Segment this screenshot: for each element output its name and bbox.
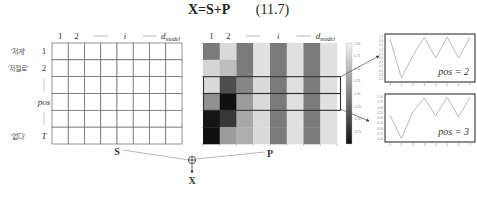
table-cell [150, 127, 166, 144]
heatmap-cell [237, 94, 254, 111]
chart-xtick: 7 [469, 83, 471, 87]
table-cell [101, 77, 117, 94]
heatmap-cell [287, 60, 304, 77]
connector-S [123, 150, 189, 160]
table-cell [52, 43, 68, 60]
chart-xtick: 0 [389, 83, 391, 87]
heatmap-col-header: i [277, 31, 280, 41]
table-cell [85, 60, 101, 77]
heatmap-cell [220, 77, 237, 94]
chart-xtick: 2 [412, 83, 414, 87]
chart-xtick: 2 [412, 143, 414, 147]
table-cell [133, 94, 149, 111]
colorbar-tick: 1.00 [354, 42, 360, 46]
table-cell [117, 60, 133, 77]
table-cell [101, 60, 117, 77]
heatmap-cell [304, 127, 321, 144]
heatmap-cell [320, 127, 337, 144]
table-cell [101, 127, 117, 144]
label-P: P [267, 148, 273, 159]
chart-xtick: 4 [435, 143, 437, 147]
table-cell [52, 110, 68, 127]
table-cell [150, 60, 166, 77]
table-cell [133, 127, 149, 144]
table-cell [68, 127, 84, 144]
heatmap-cell [220, 43, 237, 60]
table-cell [150, 43, 166, 60]
heatmap-cell [304, 77, 321, 94]
heatmap-cell [253, 60, 270, 77]
table-cell [101, 94, 117, 111]
chart-annotation: pos = 2 [437, 66, 469, 77]
heatmap-cell [253, 110, 270, 127]
table-S-row-header: 2 [42, 63, 47, 73]
heatmap-cell [270, 60, 287, 77]
heatmap-cell [304, 60, 321, 77]
table-S-col-header: 2 [74, 31, 79, 41]
connector-P [196, 152, 265, 159]
chart-ytick: 0.00 [378, 116, 384, 120]
table-cell [133, 60, 149, 77]
heatmap-cell [270, 127, 287, 144]
heatmap-cell [270, 77, 287, 94]
table-cell [166, 60, 182, 77]
heatmap-cell [304, 43, 321, 60]
heatmap-cell [270, 110, 287, 127]
table-cell [166, 110, 182, 127]
table-cell [52, 77, 68, 94]
table-cell [101, 43, 117, 60]
colorbar [346, 43, 352, 144]
table-S-col-header: dmodel [161, 31, 180, 42]
colorbar-tick: 0.00 [354, 92, 360, 96]
chart-xtick: 4 [435, 83, 437, 87]
table-cell [133, 43, 149, 60]
heatmap-cell [203, 94, 220, 111]
heatmap-cell [287, 110, 304, 127]
heatmap-cell [237, 43, 254, 60]
chart-xtick: 7 [469, 143, 471, 147]
colorbar-tick: 0.25 [354, 79, 360, 83]
table-cell [117, 110, 133, 127]
colorbar-tick: -0.75 [354, 130, 361, 134]
table-cell [85, 77, 101, 94]
table-cell [85, 43, 101, 60]
heatmap-col-header: 2 [226, 31, 231, 41]
token-label: '저게' [11, 47, 26, 56]
table-S-row-header: 1 [42, 46, 47, 56]
table-cell [166, 127, 182, 144]
table-S-row-header: T [41, 131, 47, 141]
colorbar-tick: -0.25 [354, 105, 361, 109]
table-cell [166, 43, 182, 60]
heatmap-cell [237, 110, 254, 127]
table-cell [117, 94, 133, 111]
heatmap-cell [270, 43, 287, 60]
chart-xtick: 0 [389, 143, 391, 147]
heatmap-cell [220, 94, 237, 111]
table-cell [101, 110, 117, 127]
heatmap-cell [287, 77, 304, 94]
heatmap-cell [253, 77, 270, 94]
table-cell [68, 110, 84, 127]
heatmap-cell [253, 127, 270, 144]
table-cell [117, 127, 133, 144]
heatmap-cell [304, 94, 321, 111]
heatmap-cell [253, 43, 270, 60]
table-S [52, 43, 182, 144]
heatmap-cell [220, 110, 237, 127]
chart-ytick: -1.0 [378, 77, 383, 81]
table-cell [85, 94, 101, 111]
heatmap-cell [253, 94, 270, 111]
heatmap-cell [287, 43, 304, 60]
heatmap-cell [203, 43, 220, 60]
token-label: '저절로' [8, 64, 29, 73]
positional-encoding-diagram: 12idmodel1'저게'2'저절로'posT'없다'S12idmodelP1… [0, 0, 477, 198]
table-cell [150, 110, 166, 127]
table-S-row-header: pos [37, 97, 51, 107]
heatmap-cell [220, 60, 237, 77]
label-S: S [114, 146, 120, 157]
table-cell [133, 77, 149, 94]
heatmap-cell [320, 60, 337, 77]
table-cell [52, 127, 68, 144]
table-cell [133, 110, 149, 127]
heatmap-cell [203, 110, 220, 127]
